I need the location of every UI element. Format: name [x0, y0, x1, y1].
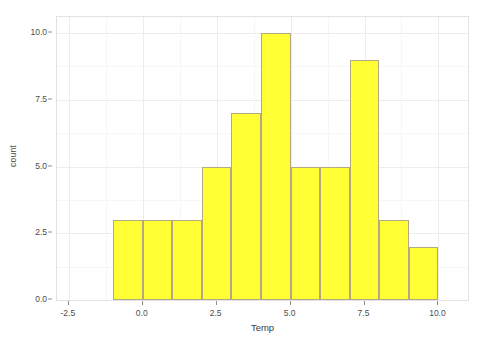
x-axis-tick-label: 7.5: [358, 308, 370, 318]
x-axis-tick-label: 5.0: [284, 308, 296, 318]
y-axis-tick-labels: 0.02.55.07.510.0: [22, 0, 52, 357]
histogram-bar: [231, 113, 261, 300]
histogram-bar: [350, 60, 380, 300]
y-axis-title: count: [4, 0, 22, 312]
histogram-bar: [113, 220, 143, 300]
x-axis-tick-label: -2.5: [60, 308, 75, 318]
histogram-bar: [291, 167, 321, 300]
histogram-bar: [172, 220, 202, 300]
gridline-major-vertical: [438, 17, 439, 300]
y-axis-tick-label: 10.0: [30, 27, 47, 37]
x-axis-tick-mark: [142, 301, 143, 305]
x-axis-tick-mark: [68, 301, 69, 305]
y-axis-tick-mark: [48, 32, 52, 33]
gridline-minor-vertical: [106, 17, 107, 300]
y-axis-tick-mark: [48, 299, 52, 300]
y-axis-tick-mark: [48, 165, 52, 166]
histogram-bar: [261, 33, 291, 300]
y-axis-tick-label: 2.5: [35, 227, 47, 237]
y-axis-tick-label: 5.0: [35, 161, 47, 171]
histogram-bar: [379, 220, 409, 300]
y-axis-title-text: count: [8, 145, 18, 167]
x-axis-title: Temp: [56, 322, 469, 333]
histogram-figure: count 0.02.55.07.510.0 -2.50.02.55.07.51…: [0, 0, 496, 357]
histogram-bar: [202, 167, 232, 300]
x-axis-tick-label: 0.0: [136, 308, 148, 318]
y-axis-tick-label: 0.0: [35, 294, 47, 304]
page-artifact-text: [6, 345, 37, 354]
x-axis-tick-label: 10.0: [429, 308, 446, 318]
y-axis-tick-mark: [48, 98, 52, 99]
histogram-bar: [143, 220, 173, 300]
x-axis-tick-mark: [216, 301, 217, 305]
plot-panel: [56, 16, 469, 301]
histogram-bar: [320, 167, 350, 300]
page-artifact-strip: [0, 344, 496, 357]
gridline-major-vertical: [69, 17, 70, 300]
x-axis-tick-mark: [364, 301, 365, 305]
x-axis-tick-mark: [437, 301, 438, 305]
x-axis-tick-mark: [290, 301, 291, 305]
x-axis-tick-label: 2.5: [210, 308, 222, 318]
histogram-bar: [409, 247, 439, 300]
y-axis-tick-mark: [48, 232, 52, 233]
y-axis-tick-label: 7.5: [35, 94, 47, 104]
